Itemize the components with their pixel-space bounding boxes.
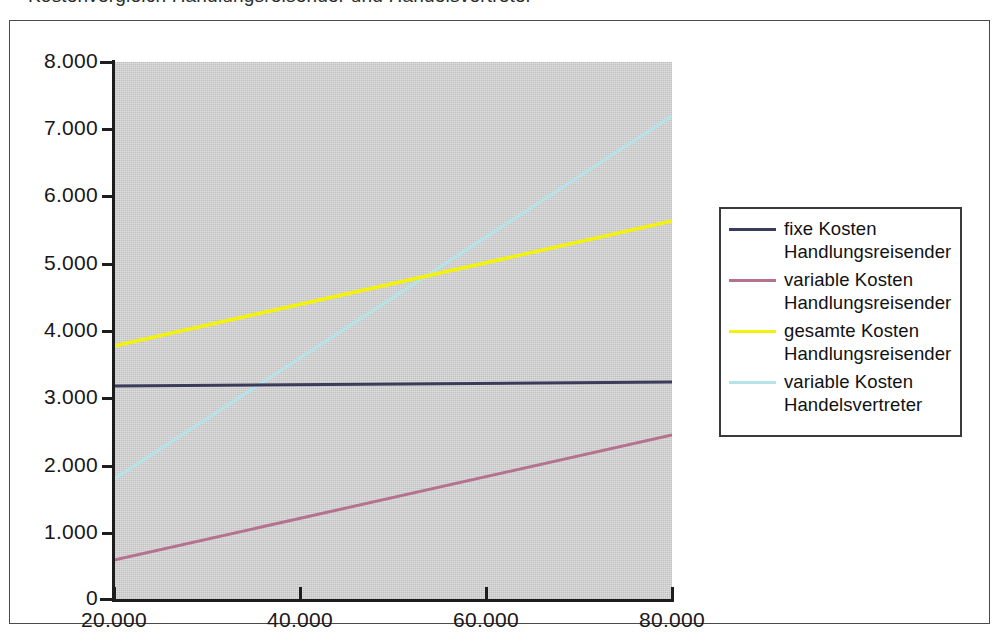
y-label-4000-wrap: 4.000 (10, 319, 98, 341)
legend-label-variable-kosten-handlungsreisender: variable Kosten Handlungsreisender (784, 269, 951, 314)
y-label-7000-wrap: 7.000 (10, 117, 98, 139)
y-label-7000: 7.000 (12, 117, 98, 138)
series-line-fixe-kosten-handlungsreisender (114, 382, 672, 386)
chart-title: Kostenvergleich Handlungsreisender und H… (28, 0, 532, 7)
legend-swatch-icon-variable-kosten-hr (729, 279, 776, 282)
series-lines (114, 62, 672, 600)
legend-label-line1: fixe Kosten (784, 218, 877, 239)
y-label-4000: 4.000 (12, 319, 98, 340)
x-tick-20000 (113, 587, 116, 601)
y-label-8000-wrap: 8.000 (10, 50, 98, 72)
legend-label-fixe-kosten-handlungsreisender: fixe Kosten Handlungsreisender (784, 218, 951, 263)
x-label-80000: 80.000 (639, 608, 705, 631)
x-label-60000: 60.000 (453, 608, 519, 631)
legend-item-fixe-kosten-handlungsreisender: fixe Kosten Handlungsreisender (729, 218, 952, 263)
y-tick-1000 (102, 532, 114, 535)
x-label-20000: 20.000 (81, 608, 147, 631)
legend-label-line2: Handelsvertreter (784, 394, 922, 417)
legend: fixe Kosten Handlungsreisender variable … (719, 207, 962, 437)
y-tick-7000 (102, 128, 114, 131)
y-label-5000: 5.000 (12, 252, 98, 273)
y-label-8000: 8.000 (12, 50, 98, 71)
series-line-gesamte-kosten-handlungsreisender (114, 221, 672, 346)
chart-screenshot: Kostenvergleich Handlungsreisender und H… (0, 0, 1000, 642)
y-tick-6000 (102, 195, 114, 198)
y-tick-8000 (100, 61, 115, 64)
x-tick-40000 (299, 587, 302, 601)
x-tick-80000 (671, 587, 674, 601)
legend-label-line2: Handlungsreisender (784, 241, 951, 264)
x-label-80000-wrap: 80.000 (602, 609, 742, 631)
x-label-20000-wrap: 20.000 (44, 609, 184, 631)
y-tick-4000 (102, 330, 114, 333)
y-tick-2000 (102, 465, 114, 468)
legend-swatch-icon-variable-kosten-hv (729, 381, 776, 384)
x-axis-line (112, 599, 674, 602)
legend-item-gesamte-kosten-handlungsreisender: gesamte Kosten Handlungsreisender (729, 320, 952, 365)
y-label-0-wrap: 0 (10, 587, 98, 609)
plot-area (114, 62, 672, 600)
y-label-3000-wrap: 3.000 (10, 386, 98, 408)
y-label-1000: 1.000 (12, 521, 98, 542)
legend-swatch-icon-fixe-kosten (729, 228, 776, 231)
y-tick-3000 (102, 397, 114, 400)
legend-label-variable-kosten-handelsvertreter: variable Kosten Handelsvertreter (784, 371, 922, 416)
y-label-5000-wrap: 5.000 (10, 252, 98, 274)
x-label-60000-wrap: 60.000 (416, 609, 556, 631)
y-label-3000: 3.000 (12, 386, 98, 407)
legend-label-gesamte-kosten-handlungsreisender: gesamte Kosten Handlungsreisender (784, 320, 951, 365)
y-label-2000-wrap: 2.000 (10, 454, 98, 476)
chart-title-clipped: Kostenvergleich Handlungsreisender und H… (0, 0, 1000, 14)
series-line-variable-kosten-handlungsreisender (114, 435, 672, 560)
x-tick-60000 (485, 587, 488, 601)
y-label-2000: 2.000 (12, 454, 98, 475)
x-label-40000-wrap: 40.000 (230, 609, 370, 631)
legend-item-variable-kosten-handelsvertreter: variable Kosten Handelsvertreter (729, 371, 952, 416)
y-label-6000: 6.000 (12, 184, 98, 205)
y-label-1000-wrap: 1.000 (10, 521, 98, 543)
legend-label-line1: variable Kosten (784, 269, 913, 290)
legend-item-variable-kosten-handlungsreisender: variable Kosten Handlungsreisender (729, 269, 952, 314)
legend-swatch-icon-gesamte-kosten (729, 330, 776, 333)
y-label-0: 0 (12, 587, 98, 608)
y-label-6000-wrap: 6.000 (10, 184, 98, 206)
series-line-variable-kosten-handelsvertreter (114, 116, 672, 479)
x-label-40000: 40.000 (267, 608, 333, 631)
chart-frame: 8.000 7.000 6.000 5.000 4.000 3.000 2.00… (9, 20, 990, 624)
legend-label-line1: gesamte Kosten (784, 320, 919, 341)
legend-label-line2: Handlungsreisender (784, 343, 951, 366)
y-tick-5000 (102, 263, 114, 266)
legend-label-line1: variable Kosten (784, 371, 913, 392)
legend-label-line2: Handlungsreisender (784, 292, 951, 315)
